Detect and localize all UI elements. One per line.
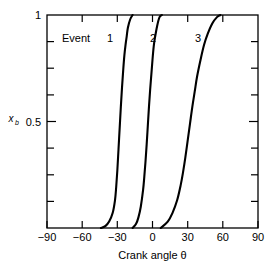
y-tick-label-half: 0.5	[26, 116, 41, 128]
chart-figure: −90 −60 −30 0 30 60 90 1 0.5 x b Crank a…	[0, 0, 279, 272]
series-label-1: 1	[107, 32, 113, 44]
y-axis-title-subscript: b	[15, 119, 19, 126]
y-tick-label-one: 1	[35, 9, 41, 21]
legend-label-event: Event	[62, 32, 90, 44]
x-tick-label-minus90: −90	[38, 231, 57, 243]
crank-angle-burn-fraction-chart: −90 −60 −30 0 30 60 90 1 0.5 x b Crank a…	[0, 0, 279, 272]
x-tick-label-90: 90	[252, 231, 264, 243]
x-axis-title: Crank angle θ	[118, 249, 187, 261]
series-label-3: 3	[195, 32, 201, 44]
x-tick-label-60: 60	[217, 231, 229, 243]
x-tick-label-minus30: −30	[108, 231, 127, 243]
x-tick-label-zero: 0	[149, 231, 155, 243]
y-axis-title-main: x	[8, 113, 15, 124]
x-tick-label-minus60: −60	[73, 231, 92, 243]
x-tick-label-30: 30	[182, 231, 194, 243]
